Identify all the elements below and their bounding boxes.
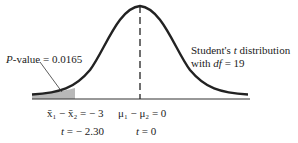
t-zero-label: t = 0 — [136, 125, 156, 137]
t-statistic-label: t = − 2.30 — [61, 125, 104, 137]
dist-text-a: Student's — [191, 44, 234, 56]
dist-text-b: distribution — [237, 44, 290, 56]
df-symbol: df — [213, 57, 222, 69]
distribution-label-line2: with df = 19 — [191, 57, 245, 69]
df-value: = 19 — [222, 57, 245, 69]
sample-diff-label: x̄₁ − x̄₂ = − 3 — [47, 107, 104, 119]
mean-diff-label: μ₁ − μ₂ = 0 — [118, 107, 166, 119]
p-symbol: P — [6, 53, 13, 65]
distribution-label-line1: Student's t distribution — [191, 44, 290, 56]
p-value-label: P-value = 0.0165 — [6, 53, 82, 65]
p-value-text: -value = 0.0165 — [13, 53, 82, 65]
t-distribution-plot — [0, 0, 298, 143]
t-value-center: = 0 — [139, 125, 156, 137]
df-text-a: with — [191, 57, 213, 69]
t-value-left: = − 2.30 — [64, 125, 104, 137]
p-value-pointer — [40, 62, 62, 92]
